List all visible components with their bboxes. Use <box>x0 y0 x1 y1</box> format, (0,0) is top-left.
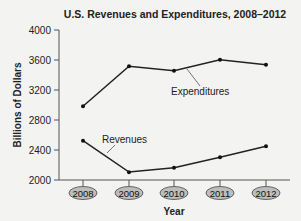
x-tick-label: 2009 <box>118 188 139 199</box>
y-axis-label: Billions of Dollars <box>12 62 23 147</box>
expenditures-label: Expenditures <box>171 86 229 97</box>
data-point <box>264 144 268 148</box>
revenues-leader <box>107 145 115 153</box>
x-tick-label: 2010 <box>163 188 184 199</box>
y-tick-label: 2000 <box>29 175 52 186</box>
x-axis-label: Year <box>163 206 184 217</box>
y-tick-label: 2800 <box>29 115 52 126</box>
x-tick-label: 2008 <box>72 188 93 199</box>
data-point <box>127 64 131 68</box>
y-tick-label: 2400 <box>29 145 52 156</box>
data-point <box>127 170 131 174</box>
data-point <box>172 166 176 170</box>
series-lines <box>81 58 268 174</box>
chart-title: U.S. Revenues and Expenditures, 2008–201… <box>64 8 287 20</box>
expenditures-leader <box>187 69 200 86</box>
x-ticks: 20082009201020112012 <box>69 180 280 200</box>
data-point <box>218 155 222 159</box>
x-tick-label: 2011 <box>210 188 230 199</box>
revenues-label: Revenues <box>102 134 147 145</box>
y-tick-label: 3600 <box>29 55 52 66</box>
y-tick-label: 3200 <box>29 85 52 96</box>
x-tick-label: 2012 <box>255 188 276 199</box>
data-point <box>81 104 85 108</box>
y-tick-label: 4000 <box>29 25 52 36</box>
data-point <box>81 139 85 143</box>
data-point <box>218 58 222 62</box>
y-ticks: 400036003200280024002000 <box>29 25 59 186</box>
data-point <box>264 63 268 67</box>
series-line-expenditures <box>83 60 266 107</box>
data-point <box>172 69 176 73</box>
line-chart: U.S. Revenues and Expenditures, 2008–201… <box>0 0 301 221</box>
